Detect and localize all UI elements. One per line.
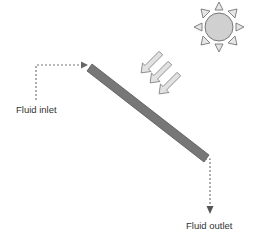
inlet-flow-arrow xyxy=(36,65,82,100)
collector-panel xyxy=(87,64,209,162)
diagram-canvas xyxy=(0,0,262,246)
inlet-arrowhead-icon xyxy=(81,62,88,69)
outlet-flow-arrow xyxy=(205,159,210,207)
sun-icon xyxy=(194,2,244,52)
outlet-arrowhead-icon xyxy=(207,206,214,214)
fluid-inlet-label: Fluid inlet xyxy=(16,104,57,115)
sunlight-arrows-icon xyxy=(137,49,183,98)
fluid-outlet-label: Fluid outlet xyxy=(186,220,232,231)
